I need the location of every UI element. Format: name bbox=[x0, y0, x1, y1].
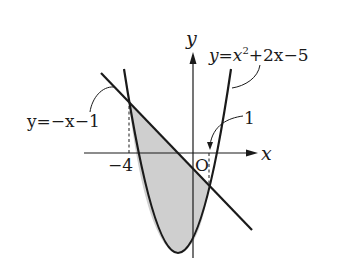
x-axis-label: x bbox=[261, 142, 272, 164]
origin-label: O bbox=[195, 155, 209, 175]
parabola-equation-label: y=x2+2x−5 bbox=[208, 45, 309, 65]
x-axis-arrow-icon bbox=[246, 150, 258, 157]
tick-label-minus-four: −4 bbox=[108, 155, 133, 175]
one-label-leader bbox=[210, 116, 243, 145]
line-label-leader bbox=[90, 87, 114, 112]
tick-label-one: 1 bbox=[244, 108, 255, 128]
graph-figure: y x O y=x2+2x−5 y=−x−1 −4 1 bbox=[0, 0, 344, 270]
y-axis-arrow-icon bbox=[190, 52, 197, 64]
one-label-arrow-icon bbox=[207, 142, 213, 150]
y-axis-label: y bbox=[185, 27, 197, 49]
line-equation-label: y=−x−1 bbox=[26, 111, 100, 131]
parabola-label-leader bbox=[232, 65, 260, 88]
